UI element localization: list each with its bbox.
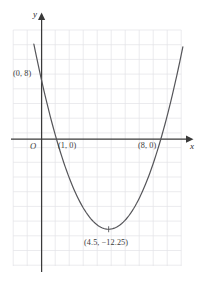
y-axis-label: y [33, 9, 37, 19]
label-root-right: (8, 0) [138, 141, 156, 150]
y-axis [38, 13, 45, 273]
label-root-left: (1, 0) [58, 141, 76, 150]
graph-figure: (0, 8) (1, 0) (8, 0) (4.5, −12.25) y x O [0, 0, 201, 282]
y-axis-arrow-icon [38, 13, 45, 21]
parabola-curve [34, 44, 183, 229]
label-y-intercept: (0, 8) [13, 69, 31, 78]
x-axis-label: x [190, 141, 194, 151]
x-axis [11, 136, 194, 143]
origin-label: O [30, 141, 36, 151]
label-vertex: (4.5, −12.25) [84, 238, 128, 247]
